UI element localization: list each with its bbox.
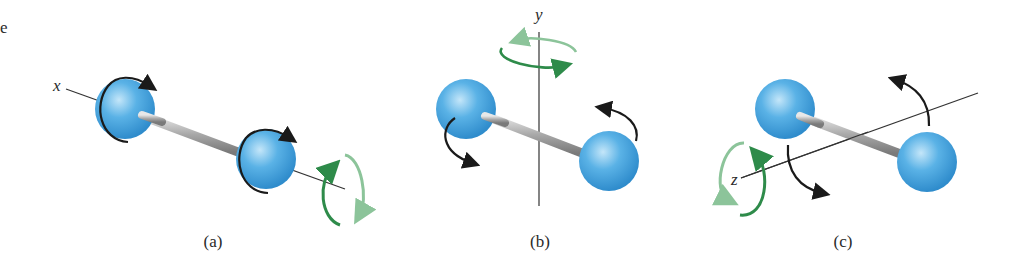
- atom-right: [579, 131, 639, 191]
- x-axis-label: x: [53, 76, 61, 96]
- atom-left: [95, 79, 155, 139]
- z-axis-label: z: [731, 170, 738, 190]
- diatomic-rotation-diagram: [0, 0, 1022, 280]
- panel-a: [66, 78, 364, 225]
- rotation-arrow-icon: [788, 145, 822, 193]
- atom-left: [755, 79, 815, 139]
- rotation-arrow-icon: [896, 80, 929, 126]
- rotation-arrow-green-icon: [345, 155, 364, 214]
- rotation-arrow-green-icon: [518, 39, 576, 53]
- rotation-arrow-green-icon: [323, 168, 340, 225]
- panel-b: [436, 32, 639, 206]
- y-axis-label: y: [535, 5, 543, 25]
- caption-c: (c): [834, 232, 853, 252]
- caption-a: (a): [204, 232, 223, 252]
- rotation-arrow-green-icon: [501, 48, 563, 68]
- atom-right: [897, 132, 957, 192]
- caption-b: (b): [530, 232, 550, 252]
- panel-c: [720, 79, 978, 215]
- rotation-arrow-green-icon: [740, 155, 765, 215]
